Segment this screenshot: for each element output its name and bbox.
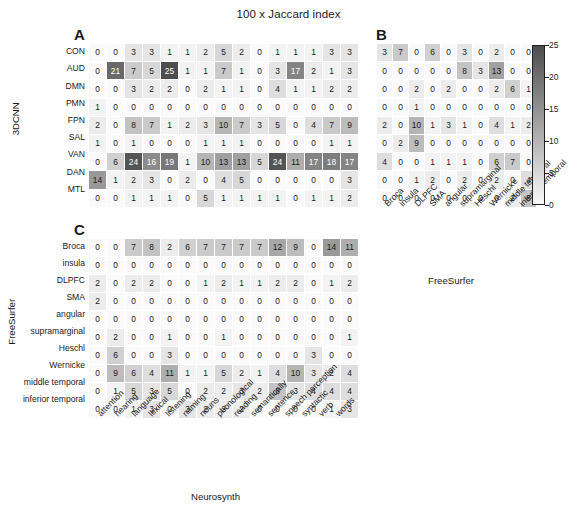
heatmap-cell: 0 <box>505 44 521 62</box>
colorbar-tick-mark <box>545 173 549 174</box>
heatmap-cell: 7 <box>393 44 409 62</box>
panel-letter-a: A <box>74 27 85 42</box>
heatmap-cell: 2 <box>269 275 287 293</box>
heatmap-cell: 0 <box>287 293 305 311</box>
heatmap-cell: 1 <box>323 275 341 293</box>
heatmap-cell: 24 <box>269 153 287 171</box>
heatmap-cell: 0 <box>215 98 233 116</box>
heatmap-cell: 4 <box>143 365 161 383</box>
heatmap-cell: 1 <box>341 134 359 152</box>
heatmap-cell: 0 <box>125 311 143 329</box>
heatmap-cell: 2 <box>489 44 505 62</box>
heatmap-cell: 1 <box>161 329 179 347</box>
colorbar-tick-mark <box>545 77 549 78</box>
heatmap-cell: 0 <box>473 153 489 171</box>
heatmap-cell: 0 <box>179 311 197 329</box>
row-tick-label: FPN <box>68 116 88 125</box>
heatmap-cell: 0 <box>179 80 197 98</box>
heatmap-cell: 0 <box>197 98 215 116</box>
heatmap-cell: 3 <box>377 44 393 62</box>
heatmap-cell: 1 <box>197 275 215 293</box>
colorbar-tick-label: 0 <box>549 201 554 209</box>
heatmap-cell: 0 <box>143 134 161 152</box>
heatmap-cell: 2 <box>323 80 341 98</box>
heatmap-cell: 1 <box>89 98 107 116</box>
heatmap-cell: 0 <box>161 134 179 152</box>
heatmap-cell: 0 <box>125 293 143 311</box>
heatmap-cell: 2 <box>125 275 143 293</box>
heatmap-cell: 1 <box>179 62 197 80</box>
heatmap-cell: 2 <box>197 80 215 98</box>
heatmap-row: 200000000000000 <box>89 293 359 311</box>
heatmap-cell: 0 <box>143 311 161 329</box>
heatmap-cell: 0 <box>305 257 323 275</box>
heatmap-cell: 1 <box>251 189 269 207</box>
colorbar-tick-labels: 0510152025 <box>549 45 577 205</box>
heatmap-cell: 0 <box>409 44 425 62</box>
heatmap-row: 06241619110131352411171817 <box>89 153 359 171</box>
heatmap-cell: 0 <box>215 293 233 311</box>
colorbar-gradient <box>532 45 545 205</box>
heatmap-cell: 0 <box>89 80 107 98</box>
heatmap-cell: 0 <box>457 80 473 98</box>
heatmap-cell: 0 <box>505 134 521 152</box>
heatmap-cell: 0 <box>251 311 269 329</box>
colorbar <box>532 45 545 205</box>
heatmap-cell: 0 <box>305 329 323 347</box>
heatmap-cell: 2 <box>441 80 457 98</box>
heatmap-cell: 0 <box>473 134 489 152</box>
heatmap-cell: 0 <box>341 311 359 329</box>
heatmap-cell: 5 <box>215 44 233 62</box>
figure-title: 100 x Jaccard index <box>0 8 577 20</box>
heatmap-cell: 0 <box>197 293 215 311</box>
heatmap-cell: 7 <box>323 116 341 134</box>
heatmap-cell: 1 <box>161 44 179 62</box>
heatmap-cell: 0 <box>425 134 441 152</box>
heatmap-cell: 1 <box>179 153 197 171</box>
heatmap-cell: 0 <box>125 329 143 347</box>
heatmap-cell: 0 <box>179 329 197 347</box>
heatmap-cell: 0 <box>107 293 125 311</box>
row-tick-label: CON <box>66 47 88 56</box>
colorbar-tick-mark <box>545 205 549 206</box>
heatmap-cell: 1 <box>287 44 305 62</box>
row-tick-label: DMN <box>65 82 88 91</box>
heatmap-cell: 0 <box>107 275 125 293</box>
heatmap-cell: 2 <box>107 329 125 347</box>
row-tick-label: inferior temporal <box>23 395 88 404</box>
heatmap-cell: 3 <box>143 44 161 62</box>
colorbar-tick-label: 20 <box>549 73 558 81</box>
heatmap-cell: 1 <box>125 134 143 152</box>
heatmap-cell: 0 <box>489 98 505 116</box>
heatmap-cell: 2 <box>393 134 409 152</box>
heatmap-cell: 2 <box>287 275 305 293</box>
heatmap-cell: 2 <box>341 275 359 293</box>
heatmap-cell: 0 <box>161 275 179 293</box>
heatmap-cell: 19 <box>161 153 179 171</box>
heatmap-cell: 7 <box>251 239 269 257</box>
heatmap-cell: 13 <box>489 62 505 80</box>
panel-b-column-labels: BrocainsulaDLPFCSMAangularsupramarginalH… <box>376 202 526 272</box>
heatmap-cell: 7 <box>125 62 143 80</box>
row-tick-label: Broca <box>63 242 88 251</box>
heatmap-cell: 0 <box>161 98 179 116</box>
heatmap-cell: 0 <box>161 171 179 189</box>
heatmap-cell: 0 <box>215 311 233 329</box>
row-tick-label: PMN <box>66 99 88 108</box>
heatmap-cell: 0 <box>233 257 251 275</box>
heatmap-cell: 2 <box>305 62 323 80</box>
heatmap-cell: 0 <box>89 365 107 383</box>
panel-c-x-axis-title: Neurosynth <box>88 492 343 502</box>
heatmap-cell: 0 <box>161 311 179 329</box>
heatmap-cell: 0 <box>323 311 341 329</box>
heatmap-cell: 0 <box>341 347 359 365</box>
heatmap-cell: 0 <box>107 189 125 207</box>
heatmap-cell: 1 <box>215 80 233 98</box>
colorbar-tick-mark <box>545 45 549 46</box>
heatmap-cell: 0 <box>107 98 125 116</box>
heatmap-cell: 2 <box>125 171 143 189</box>
heatmap-cell: 2 <box>377 116 393 134</box>
heatmap-cell: 0 <box>441 44 457 62</box>
heatmap-cell: 0 <box>393 98 409 116</box>
heatmap-cell: 2 <box>161 239 179 257</box>
